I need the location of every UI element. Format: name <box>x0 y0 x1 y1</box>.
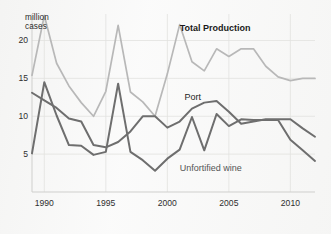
x-tick-label-1990: 1990 <box>27 198 61 208</box>
x-tick-label-2000: 2000 <box>150 198 184 208</box>
y-axis-unit-label: million cases <box>25 13 49 32</box>
x-tick-label-1995: 1995 <box>89 198 123 208</box>
x-tick-label-2010: 2010 <box>273 198 307 208</box>
series-label-total-production: Total Production <box>180 23 251 33</box>
horizontal-gridlines <box>32 41 315 155</box>
x-tick-label-2005: 2005 <box>212 198 246 208</box>
y-tick-label-5: 5 <box>8 149 28 159</box>
data-series-group <box>32 16 315 171</box>
series-line-unfortified-wine <box>32 82 315 171</box>
series-line-total-production <box>32 16 315 117</box>
y-tick-label-20: 20 <box>8 35 28 45</box>
y-tick-label-15: 15 <box>8 73 28 83</box>
series-label-unfortified-wine: Unfortified wine <box>180 163 242 173</box>
y-tick-label-10: 10 <box>8 111 28 121</box>
chart-container: million cases 5101520 199019952000200520… <box>0 0 331 234</box>
series-label-port: Port <box>185 92 202 102</box>
